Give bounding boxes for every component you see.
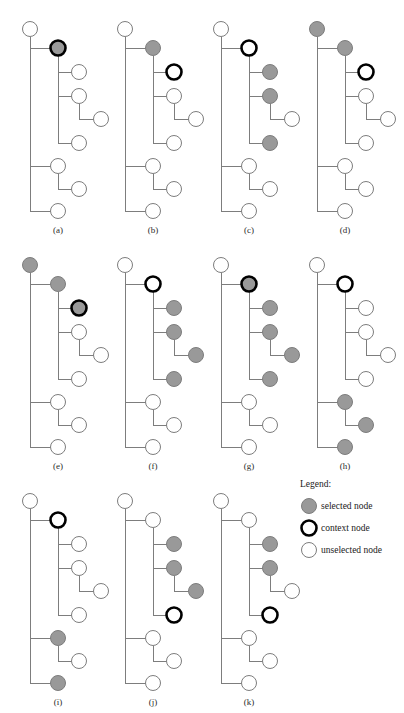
tree-node-unselected[interactable] bbox=[146, 159, 161, 174]
tree-node-context[interactable] bbox=[167, 608, 182, 623]
tree-node-unselected[interactable] bbox=[381, 112, 396, 127]
tree-node-unselected[interactable] bbox=[72, 654, 87, 669]
tree-node-unselected[interactable] bbox=[167, 89, 182, 104]
tree-node-selected[interactable] bbox=[23, 258, 38, 273]
tree-node-selected[interactable] bbox=[146, 41, 161, 56]
tree-node-selected[interactable] bbox=[189, 348, 204, 363]
tree-selection-figure: (a)(b)(c)(d)(e)(f)(g)(h)(i)(j)(k) Legend… bbox=[0, 0, 404, 713]
tree-node-unselected[interactable] bbox=[263, 654, 278, 669]
tree-node-unselected[interactable] bbox=[118, 258, 133, 273]
tree-node-unselected[interactable] bbox=[146, 395, 161, 410]
tree-node-selected[interactable] bbox=[167, 325, 182, 340]
tree-node-unselected[interactable] bbox=[72, 537, 87, 552]
tree-node-unselected[interactable] bbox=[72, 89, 87, 104]
tree-node-unselected[interactable] bbox=[285, 112, 300, 127]
tree-node-selected[interactable] bbox=[263, 301, 278, 316]
tree-node-unselected[interactable] bbox=[72, 561, 87, 576]
tree-node-unselected[interactable] bbox=[214, 258, 229, 273]
tree-node-unselected[interactable] bbox=[23, 22, 38, 37]
tree-node-unselected[interactable] bbox=[242, 631, 257, 646]
tree-node-unselected[interactable] bbox=[72, 372, 87, 387]
tree-node-context[interactable] bbox=[167, 65, 182, 80]
tree-node-selected[interactable] bbox=[167, 537, 182, 552]
tree-node-context[interactable] bbox=[359, 65, 374, 80]
tree-node-unselected[interactable] bbox=[51, 440, 66, 455]
tree-node-unselected[interactable] bbox=[359, 301, 374, 316]
tree-node-selected[interactable] bbox=[263, 325, 278, 340]
tree-node-selected[interactable] bbox=[51, 277, 66, 292]
tree-node-selected[interactable] bbox=[51, 676, 66, 691]
tree-node-selected[interactable] bbox=[263, 537, 278, 552]
tree-node-selected-context[interactable] bbox=[242, 277, 257, 292]
tree-node-unselected[interactable] bbox=[242, 159, 257, 174]
tree-node-selected[interactable] bbox=[359, 418, 374, 433]
tree-node-unselected[interactable] bbox=[242, 513, 257, 528]
tree-node-selected[interactable] bbox=[167, 561, 182, 576]
tree-node-unselected[interactable] bbox=[189, 112, 204, 127]
tree-node-unselected[interactable] bbox=[51, 159, 66, 174]
tree-node-unselected[interactable] bbox=[359, 89, 374, 104]
tree-node-selected[interactable] bbox=[263, 65, 278, 80]
tree-node-selected[interactable] bbox=[263, 372, 278, 387]
tree-node-unselected[interactable] bbox=[72, 136, 87, 151]
tree-node-unselected[interactable] bbox=[72, 182, 87, 197]
tree-node-selected[interactable] bbox=[263, 136, 278, 151]
tree-node-unselected[interactable] bbox=[285, 584, 300, 599]
tree-node-unselected[interactable] bbox=[51, 204, 66, 219]
tree-node-unselected[interactable] bbox=[359, 372, 374, 387]
tree-node-unselected[interactable] bbox=[167, 182, 182, 197]
tree-node-unselected[interactable] bbox=[263, 418, 278, 433]
tree-node-context[interactable] bbox=[51, 513, 66, 528]
tree-node-selected[interactable] bbox=[263, 89, 278, 104]
tree-node-unselected[interactable] bbox=[72, 418, 87, 433]
tree-node-unselected[interactable] bbox=[118, 22, 133, 37]
tree-node-unselected[interactable] bbox=[94, 112, 109, 127]
tree-node-unselected[interactable] bbox=[359, 136, 374, 151]
tree-node-unselected[interactable] bbox=[51, 395, 66, 410]
tree-node-unselected[interactable] bbox=[242, 440, 257, 455]
tree-node-unselected[interactable] bbox=[72, 608, 87, 623]
tree-node-unselected[interactable] bbox=[23, 494, 38, 509]
tree-node-unselected[interactable] bbox=[167, 654, 182, 669]
tree-node-unselected[interactable] bbox=[72, 65, 87, 80]
tree-node-unselected[interactable] bbox=[214, 494, 229, 509]
tree-node-context[interactable] bbox=[263, 608, 278, 623]
tree-node-unselected[interactable] bbox=[359, 325, 374, 340]
tree-node-selected[interactable] bbox=[310, 22, 325, 37]
tree-node-unselected[interactable] bbox=[310, 258, 325, 273]
tree-node-unselected[interactable] bbox=[146, 440, 161, 455]
tree-node-unselected[interactable] bbox=[146, 631, 161, 646]
tree-node-unselected[interactable] bbox=[72, 325, 87, 340]
tree-node-unselected[interactable] bbox=[167, 136, 182, 151]
tree-node-selected[interactable] bbox=[263, 561, 278, 576]
tree-node-unselected[interactable] bbox=[214, 22, 229, 37]
tree-node-unselected[interactable] bbox=[146, 676, 161, 691]
tree-node-unselected[interactable] bbox=[242, 676, 257, 691]
tree-node-unselected[interactable] bbox=[338, 204, 353, 219]
tree-node-unselected[interactable] bbox=[242, 204, 257, 219]
tree-node-selected[interactable] bbox=[338, 440, 353, 455]
tree-node-unselected[interactable] bbox=[94, 584, 109, 599]
tree-node-selected[interactable] bbox=[285, 348, 300, 363]
tree-node-selected[interactable] bbox=[338, 41, 353, 56]
tree-node-context[interactable] bbox=[338, 277, 353, 292]
tree-node-selected[interactable] bbox=[167, 372, 182, 387]
tree-node-unselected[interactable] bbox=[146, 204, 161, 219]
tree-node-selected[interactable] bbox=[338, 395, 353, 410]
tree-node-unselected[interactable] bbox=[381, 348, 396, 363]
tree-node-unselected[interactable] bbox=[167, 418, 182, 433]
tree-node-unselected[interactable] bbox=[94, 348, 109, 363]
tree-node-selected[interactable] bbox=[51, 631, 66, 646]
tree-node-unselected[interactable] bbox=[118, 494, 133, 509]
tree-node-context[interactable] bbox=[242, 41, 257, 56]
tree-node-unselected[interactable] bbox=[146, 513, 161, 528]
tree-node-selected[interactable] bbox=[167, 301, 182, 316]
tree-node-selected-context[interactable] bbox=[72, 301, 87, 316]
tree-node-unselected[interactable] bbox=[263, 182, 278, 197]
tree-node-context[interactable] bbox=[146, 277, 161, 292]
tree-node-unselected[interactable] bbox=[242, 395, 257, 410]
tree-node-unselected[interactable] bbox=[359, 182, 374, 197]
tree-node-selected-context[interactable] bbox=[51, 41, 66, 56]
tree-node-unselected[interactable] bbox=[338, 159, 353, 174]
tree-node-selected[interactable] bbox=[189, 584, 204, 599]
